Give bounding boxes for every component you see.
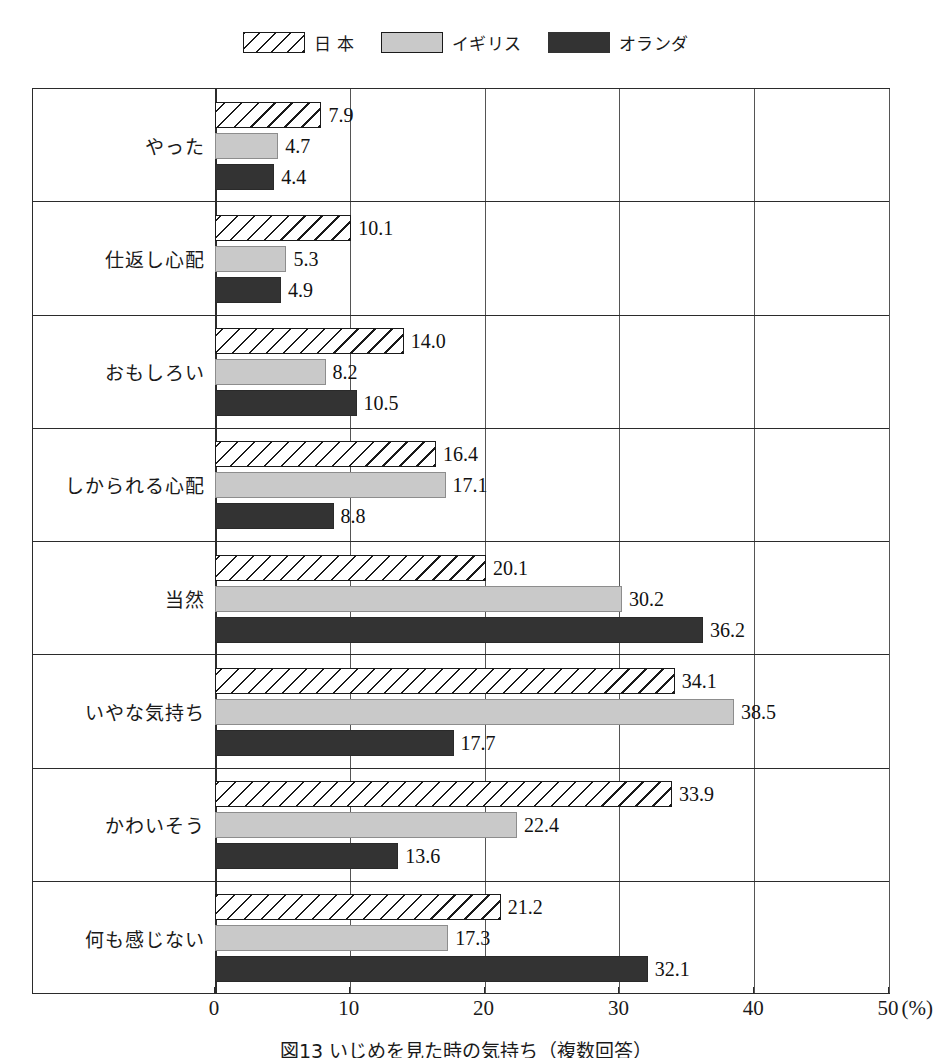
gray-swatch-icon [381, 32, 443, 53]
x-tick-40 [753, 987, 754, 994]
bar-value-label: 38.5 [741, 700, 776, 723]
bar-オランダ [215, 617, 703, 643]
category-label: やった [33, 89, 215, 201]
bar-イギリス [215, 586, 622, 612]
bar-日 本 [215, 102, 321, 128]
bar-value-label: 34.1 [682, 669, 717, 692]
bar-日 本 [215, 441, 436, 467]
x-tick-label: 10 [338, 996, 359, 1021]
bar-group: 33.922.413.6 [215, 769, 889, 881]
legend-label: イギリス [452, 30, 522, 55]
bar-日 本 [215, 555, 486, 581]
chart-plot-area: やった7.94.74.4仕返し心配10.15.34.9おもしろい14.08.21… [32, 88, 890, 994]
bar-value-label: 17.3 [455, 927, 490, 950]
bar-group: 10.15.34.9 [215, 202, 889, 314]
bar-value-label: 7.9 [328, 103, 353, 126]
category-row: かわいそう33.922.413.6 [33, 769, 889, 882]
bar-value-label: 20.1 [493, 556, 528, 579]
category-label: かわいそう [33, 769, 215, 881]
bar-value-label: 33.9 [679, 783, 714, 806]
category-label: おもしろい [33, 316, 215, 428]
bar-value-label: 21.2 [508, 896, 543, 919]
x-tick-label: 0 [209, 996, 220, 1021]
category-row: 当然20.130.236.2 [33, 542, 889, 655]
x-tick-label: 40 [743, 996, 764, 1021]
category-label: 仕返し心配 [33, 202, 215, 314]
x-tick-label: 30 [608, 996, 629, 1021]
bar-value-label: 17.1 [453, 474, 488, 497]
category-label: 当然 [33, 542, 215, 654]
bar-オランダ [215, 730, 454, 756]
figure-caption: 図13 いじめを見た時の気持ち（複数回答） [0, 1041, 932, 1058]
bar-value-label: 32.1 [655, 958, 690, 981]
x-tick-label: 20 [473, 996, 494, 1021]
bar-日 本 [215, 894, 501, 920]
bar-日 本 [215, 215, 351, 241]
bar-イギリス [215, 359, 326, 385]
category-row: 仕返し心配10.15.34.9 [33, 202, 889, 315]
category-label: しかられる心配 [33, 429, 215, 541]
bar-オランダ [215, 956, 648, 982]
x-tick-50 [888, 987, 889, 994]
bar-value-label: 14.0 [411, 330, 446, 353]
x-tick-30 [618, 987, 619, 994]
bar-value-label: 30.2 [629, 587, 664, 610]
legend-item-3: オランダ [548, 30, 689, 55]
x-tick-label: 50 [878, 996, 899, 1021]
bar-イギリス [215, 925, 448, 951]
category-label: いやな気持ち [33, 655, 215, 767]
category-row: おもしろい14.08.210.5 [33, 316, 889, 429]
x-tick-10 [349, 987, 350, 994]
bar-オランダ [215, 843, 398, 869]
bar-group: 34.138.517.7 [215, 655, 889, 767]
bar-イギリス [215, 812, 517, 838]
category-row: いやな気持ち34.138.517.7 [33, 655, 889, 768]
bar-value-label: 4.7 [285, 134, 310, 157]
bar-オランダ [215, 503, 334, 529]
bar-オランダ [215, 164, 274, 190]
legend-label: オランダ [619, 30, 689, 55]
bar-value-label: 36.2 [710, 618, 745, 641]
bar-value-label: 8.2 [333, 361, 358, 384]
bar-group: 7.94.74.4 [215, 89, 889, 201]
chart-legend: 日 本イギリスオランダ [0, 30, 932, 55]
x-axis-unit-label: (%) [902, 996, 933, 1021]
bar-value-label: 17.7 [461, 731, 496, 754]
bar-イギリス [215, 699, 734, 725]
bar-value-label: 4.4 [281, 165, 306, 188]
category-label: 何も感じない [33, 882, 215, 995]
bar-イギリス [215, 472, 446, 498]
x-tick-20 [484, 987, 485, 994]
bar-value-label: 16.4 [443, 443, 478, 466]
hatched-swatch-icon [243, 32, 305, 53]
bar-日 本 [215, 781, 672, 807]
category-row: しかられる心配16.417.18.8 [33, 429, 889, 542]
bar-group: 21.217.332.1 [215, 882, 889, 995]
bar-オランダ [215, 277, 281, 303]
bar-日 本 [215, 668, 675, 694]
bar-イギリス [215, 246, 286, 272]
legend-item-2: イギリス [381, 30, 522, 55]
gridline-50 [889, 89, 890, 993]
legend-label: 日 本 [314, 30, 355, 55]
bar-value-label: 22.4 [524, 814, 559, 837]
bar-value-label: 4.9 [288, 278, 313, 301]
bar-日 本 [215, 328, 404, 354]
bar-group: 14.08.210.5 [215, 316, 889, 428]
bar-group: 20.130.236.2 [215, 542, 889, 654]
legend-item-1: 日 本 [243, 30, 355, 55]
x-axis: 01020304050(%) [32, 994, 890, 1034]
category-row: やった7.94.74.4 [33, 89, 889, 202]
bar-イギリス [215, 133, 278, 159]
bar-オランダ [215, 390, 357, 416]
bar-value-label: 10.5 [364, 392, 399, 415]
category-row: 何も感じない21.217.332.1 [33, 882, 889, 995]
bar-value-label: 8.8 [341, 505, 366, 528]
bar-group: 16.417.18.8 [215, 429, 889, 541]
x-tick-0 [214, 987, 215, 994]
bar-value-label: 13.6 [405, 845, 440, 868]
bar-value-label: 5.3 [293, 247, 318, 270]
bar-value-label: 10.1 [358, 216, 393, 239]
dark-swatch-icon [548, 32, 610, 53]
